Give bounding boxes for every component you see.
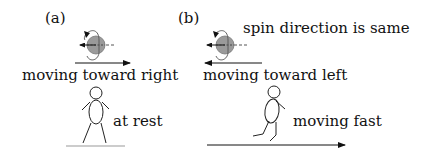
- spinning-ball-b: [207, 31, 248, 60]
- panel-b: (b) spin direction is same moving toward…: [178, 9, 410, 145]
- motion-caption-a: moving toward right: [22, 66, 178, 84]
- diagram-canvas: (a) moving toward right at rest: [0, 0, 430, 154]
- observer-body: [89, 100, 103, 124]
- panel-a: (a) moving toward right at rest: [22, 9, 178, 146]
- observer-caption-b: moving fast: [293, 112, 382, 130]
- spin-note: spin direction is same: [243, 19, 410, 37]
- observer-head: [268, 86, 280, 98]
- observer-body: [263, 98, 280, 124]
- spinning-ball-a: [80, 31, 116, 60]
- motion-caption-b: moving toward left: [203, 66, 347, 84]
- panel-b-label: (b): [178, 9, 199, 27]
- observer-at-rest: [82, 87, 109, 143]
- observer-running: [253, 86, 285, 141]
- panel-a-label: (a): [45, 9, 66, 27]
- observer-caption-a: at rest: [113, 112, 163, 130]
- observer-head: [90, 87, 102, 99]
